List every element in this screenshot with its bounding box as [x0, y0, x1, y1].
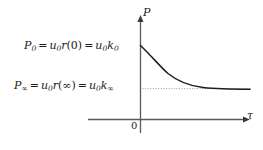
label-p-infinity: P∞=u0r(∞)=u0k∞ [14, 80, 114, 93]
p-zero-equals-2: = [82, 39, 95, 52]
x-axis-label: τ [247, 110, 253, 121]
p-zero-k-base: k [107, 39, 114, 52]
p-infinity-function-argument: (∞) [58, 79, 76, 92]
figure-container: P0=u0r(0)=u0k0 P∞=u0r(∞)=u0k∞ P τ 0 [0, 0, 263, 150]
p-infinity-u-base-2: u [89, 79, 96, 92]
p-infinity-k-base: k [101, 79, 108, 92]
p-zero-function-argument: (0) [67, 39, 83, 52]
p-zero-equals-1: = [36, 39, 49, 52]
y-axis-label: P [143, 7, 150, 18]
p-infinity-equals-2: = [76, 79, 89, 92]
p-zero-u-base: u [49, 39, 56, 52]
p-infinity-equals-1: = [28, 79, 41, 92]
p-zero-k-subscript: 0 [114, 44, 119, 53]
p-infinity-k-subscript: ∞ [108, 84, 114, 93]
label-p-zero: P0=u0r(0)=u0k0 [24, 40, 119, 53]
origin-label: 0 [131, 121, 137, 131]
decay-curve [141, 46, 251, 90]
p-infinity-u-base: u [41, 79, 48, 92]
p-infinity-subscript: ∞ [21, 84, 27, 93]
